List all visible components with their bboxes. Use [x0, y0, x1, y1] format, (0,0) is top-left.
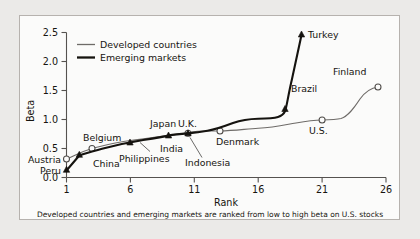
y-tick-label-3: 1.5	[43, 85, 58, 96]
label-peru: Peru	[40, 165, 61, 176]
y-tick-label-4: 2.0	[43, 56, 58, 67]
developed-countries-line	[67, 87, 379, 159]
x-tick-label-1: 6	[127, 184, 133, 195]
label-turkey: Turkey	[307, 29, 339, 40]
chart-caption: Developed countries and emerging markets…	[37, 210, 383, 219]
marker-turkey	[298, 31, 304, 37]
label-belgium: Belgium	[83, 132, 121, 143]
label-japan: Japan	[149, 118, 176, 129]
series-developed-countries	[64, 84, 382, 162]
label-denmark: Denmark	[216, 136, 260, 147]
leader-indonesia	[190, 138, 202, 158]
chart-panel: 0.0 0.5 1.0 1.5 2.0 2.5 Beta 1 6 11 16 2…	[19, 15, 400, 220]
leader-philippines	[140, 143, 150, 152]
x-tick-label-2: 11	[188, 184, 200, 195]
y-tick-label-5: 2.5	[43, 27, 58, 38]
x-tick-label-3: 16	[252, 184, 264, 195]
label-austria: Austria	[28, 154, 61, 165]
marker-finland	[375, 84, 381, 90]
label-indonesia: Indonesia	[185, 157, 230, 168]
x-tick-label-5: 26	[380, 184, 392, 195]
label-china: China	[93, 158, 120, 169]
y-tick-label-1: 0.5	[43, 143, 58, 154]
label-us: U.S.	[309, 125, 328, 136]
label-uk: U.K.	[178, 118, 197, 129]
x-tick-label-4: 21	[316, 184, 328, 195]
label-philippines: Philippines	[119, 153, 170, 164]
marker-us	[319, 117, 325, 123]
legend-label-emerging: Emerging markets	[100, 52, 186, 63]
label-brazil: Brazil	[291, 83, 317, 94]
legend-label-developed: Developed countries	[100, 39, 197, 50]
marker-austria	[64, 156, 70, 162]
y-axis-title: Beta	[25, 100, 36, 122]
x-tick-label-0: 1	[63, 184, 69, 195]
label-india: India	[160, 143, 183, 154]
y-tick-label-2: 1.0	[43, 114, 58, 125]
label-finland: Finland	[333, 66, 367, 77]
chart-legend: Developed countries Emerging markets	[77, 39, 197, 63]
beta-rank-line-chart: 0.0 0.5 1.0 1.5 2.0 2.5 Beta 1 6 11 16 2…	[20, 16, 401, 221]
axis-group: 0.0 0.5 1.0 1.5 2.0 2.5 Beta 1 6 11 16 2…	[25, 27, 392, 208]
x-axis-title: Rank	[214, 197, 238, 208]
